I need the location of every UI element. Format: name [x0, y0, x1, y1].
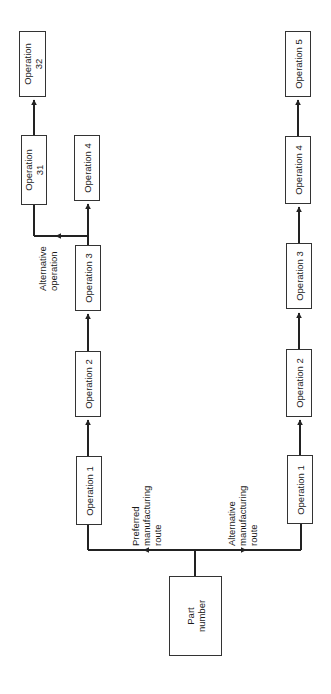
alternative-operation-4-label: Operation 4 [293, 145, 304, 195]
preferred-route-label: Preferred manufacturing route [130, 486, 163, 546]
manufacturing-route-diagram: Part number Preferred manufacturing rout… [0, 0, 331, 694]
preferred-operation-1-label: Operation 1 [84, 466, 95, 516]
preferred-operation-2-label: Operation 2 [83, 359, 94, 409]
preferred-operation-4-box: Operation 4 [74, 135, 100, 201]
operation-31-label: Operation 31 [23, 149, 45, 191]
alternative-operation-3-box: Operation 3 [286, 243, 312, 309]
preferred-operation-4-label: Operation 4 [82, 143, 93, 193]
operation-32-label: Operation 32 [22, 43, 44, 85]
preferred-operation-3-label: Operation 3 [83, 253, 94, 303]
preferred-operation-3-box: Operation 3 [75, 245, 101, 311]
alternative-operation-2-box: Operation 2 [286, 349, 312, 417]
connector-lines [0, 0, 331, 694]
alternative-operation-3-label: Operation 3 [294, 251, 305, 301]
operation-32-box: Operation 32 [19, 31, 46, 97]
alternative-route-label: Alternative manufacturing route [226, 486, 259, 546]
alternative-operation-5-box: Operation 5 [285, 31, 311, 97]
preferred-operation-2-box: Operation 2 [75, 351, 101, 417]
alternative-operation-5-label: Operation 5 [293, 39, 304, 89]
operation-31-box: Operation 31 [21, 135, 47, 205]
alternative-operation-1-label: Operation 1 [295, 465, 306, 515]
preferred-operation-1-box: Operation 1 [76, 456, 102, 525]
alternative-operation-1-box: Operation 1 [287, 455, 313, 524]
part-number-box: Part number [169, 576, 222, 656]
alternative-operation-4-box: Operation 4 [285, 136, 311, 204]
alternative-operation-label: Alternative operation [37, 246, 59, 291]
alternative-operation-2-label: Operation 2 [294, 358, 305, 408]
part-number-label: Part number [185, 600, 207, 632]
